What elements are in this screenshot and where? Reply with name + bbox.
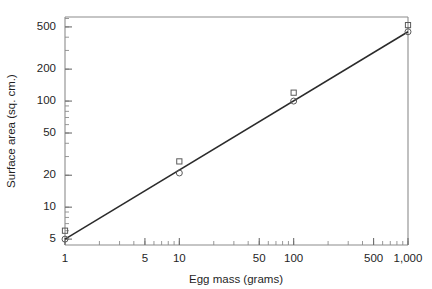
y-tick-label: 500 <box>37 20 56 32</box>
y-tick-label: 10 <box>43 200 56 212</box>
x-tick-label: 1 <box>62 252 68 264</box>
surface-area-vs-egg-mass-plot: 5102050100200500 1510501005001,000 Egg m… <box>0 0 432 289</box>
y-axis-title: Surface area (sq. cm.) <box>5 74 17 188</box>
y-tick-label: 100 <box>37 94 56 106</box>
x-tick-label: 100 <box>284 252 303 264</box>
x-tick-label: 50 <box>253 252 266 264</box>
chart-figure: 5102050100200500 1510501005001,000 Egg m… <box>0 0 432 289</box>
y-tick-label: 200 <box>37 62 56 74</box>
x-tick-label: 1,000 <box>394 252 423 264</box>
x-axis-title: Egg mass (grams) <box>189 273 283 285</box>
x-tick-label: 10 <box>173 252 186 264</box>
y-tick-label: 5 <box>50 232 56 244</box>
y-tick-label: 20 <box>43 168 56 180</box>
x-tick-label: 500 <box>364 252 383 264</box>
y-tick-label: 50 <box>43 126 56 138</box>
x-tick-label: 5 <box>142 252 148 264</box>
